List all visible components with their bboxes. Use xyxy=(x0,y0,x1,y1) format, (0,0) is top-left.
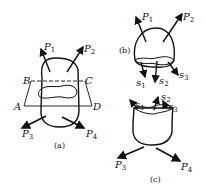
label-p1: P1 xyxy=(141,11,153,24)
label-p4: P4 xyxy=(180,161,193,174)
force-arrow-p4 xyxy=(156,148,180,161)
label-p2: P2 xyxy=(182,11,194,24)
stress-arrow-s3 xyxy=(168,62,178,75)
label-b: B xyxy=(22,75,30,86)
label-s1: s1 xyxy=(136,77,146,90)
figure-c: s1 s2 s3 P3 P4 (c) xyxy=(114,91,193,184)
label-p4: P4 xyxy=(85,128,98,141)
label-d: D xyxy=(92,101,101,112)
label-s3: s3 xyxy=(168,101,178,114)
cut-surface xyxy=(39,85,78,98)
free-body-diagram: P1 P2 P3 P4 A B C D (a) P1 P2 (b) s1 s2 … xyxy=(0,0,206,188)
figure-a: P1 P2 P3 P4 A B C D (a) xyxy=(13,41,101,150)
section-plane xyxy=(24,81,92,106)
label-p2: P2 xyxy=(83,43,95,56)
label-s2: s2 xyxy=(159,75,169,88)
label-p3: P3 xyxy=(114,159,126,172)
force-arrow-p3 xyxy=(22,116,46,128)
label-s3: s3 xyxy=(179,69,189,82)
label-p3: P3 xyxy=(21,128,33,141)
label-p1: P1 xyxy=(43,41,55,54)
body-outline xyxy=(41,58,79,127)
label-c: C xyxy=(85,75,93,86)
figure-b: P1 P2 (b) s1 s2 s3 xyxy=(119,11,194,90)
force-arrow-p3 xyxy=(118,147,144,158)
force-arrow-p2 xyxy=(163,14,182,42)
label-a: A xyxy=(13,101,21,112)
stress-arrow-s1 xyxy=(141,62,145,77)
caption-b: (b) xyxy=(119,46,130,55)
caption-a: (a) xyxy=(54,141,65,150)
caption-c: (c) xyxy=(150,175,161,184)
